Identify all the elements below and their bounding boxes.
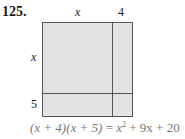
- equation-equals: =: [102, 120, 116, 135]
- equation-rhs-rest: + 9x + 20: [126, 120, 180, 135]
- label-top-4: 4: [118, 5, 124, 20]
- label-left-5: 5: [31, 97, 37, 112]
- problem-number: 125.: [2, 4, 27, 20]
- area-model-rectangle: [42, 22, 133, 117]
- horizontal-divider: [42, 93, 132, 94]
- equation-lhs: (x + 4)(x + 5): [30, 120, 102, 135]
- vertical-divider: [112, 22, 113, 116]
- label-top-x: x: [75, 5, 80, 20]
- label-left-x: x: [31, 50, 36, 65]
- equation: (x + 4)(x + 5) = x2 + 9x + 20: [30, 120, 180, 136]
